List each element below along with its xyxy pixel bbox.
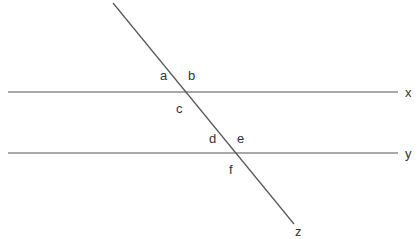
angle-e-label: e [237,131,244,146]
line-x-label: x [405,85,412,100]
parallel-lines-diagram: x y z a b c d e f [0,0,418,239]
transversal-z [113,3,294,224]
angle-f-label: f [229,162,233,177]
angle-d-label: d [209,131,216,146]
angle-b-label: b [188,68,195,83]
angle-a-label: a [160,68,168,83]
angle-c-label: c [176,101,183,116]
line-z-label: z [295,224,302,239]
line-y-label: y [405,146,412,161]
